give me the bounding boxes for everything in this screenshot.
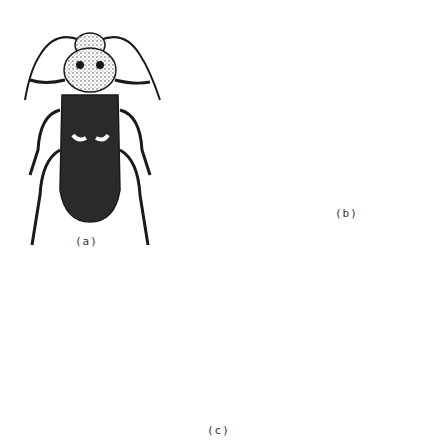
- label-a: (a): [75, 235, 98, 248]
- label-c: (c): [207, 424, 230, 437]
- label-b: (b): [335, 207, 358, 220]
- beetle-illustration: [0, 0, 442, 446]
- beetle-a: [25, 33, 160, 245]
